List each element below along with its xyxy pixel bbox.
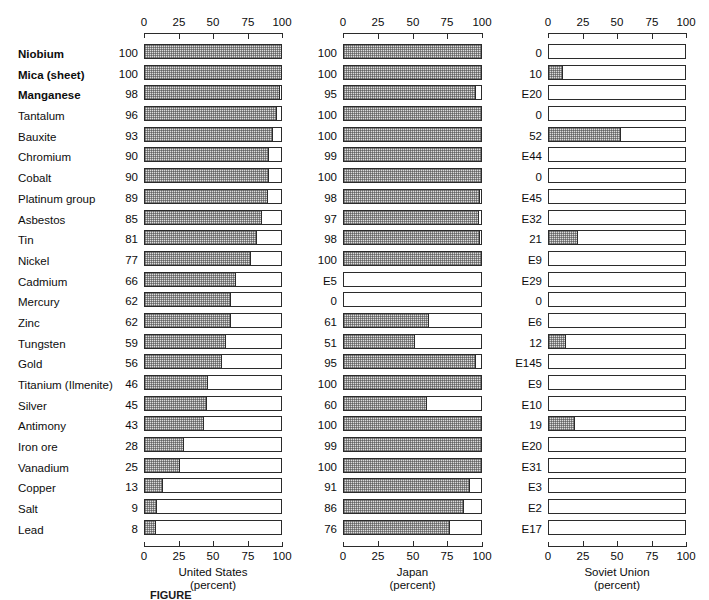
bar-fill [344,169,482,182]
bar-value-label: 52 [512,128,542,145]
bar-fill [344,66,482,79]
bar-row: 56 [130,354,288,375]
bar-fill [344,500,464,513]
bar-track [144,354,282,369]
bar-value-label: 95 [307,86,337,103]
bar-row: 28 [130,437,288,458]
top-axis-tick [248,33,249,39]
bar-track [343,458,482,473]
top-axis-tick-label: 100 [267,16,297,28]
panel-united-states: 00252550507575100100United States(percen… [130,0,288,600]
bar-value-label: 77 [108,252,138,269]
bar-fill [145,252,251,265]
bar-track [548,65,686,80]
bar-row: E2 [534,499,692,520]
bar-track [343,313,482,328]
bar-row: 90 [130,147,288,168]
bottom-axis-tick [548,542,549,547]
bottom-axis-tick-label: 0 [533,550,563,562]
bar-row: 61 [329,313,488,334]
bottom-axis-tick [617,541,618,547]
bar-track [548,189,686,204]
bottom-axis-tick-label: 50 [398,550,428,562]
bar-fill [145,438,184,451]
bar-track [548,210,686,225]
top-axis-tick-label: 0 [129,16,159,28]
bottom-axis-tick-label: 0 [328,550,358,562]
bar-row: 60 [329,396,488,417]
bar-value-label: 59 [108,335,138,352]
top-axis-tick [378,33,379,39]
bar-fill [145,479,163,492]
bar-value-label: E9 [512,376,542,393]
top-axis-tick-label: 75 [233,16,263,28]
bar-track [343,189,482,204]
bar-track [144,65,282,80]
bar-track [343,230,482,245]
bar-row: E5 [329,272,488,293]
bar-track [548,520,686,535]
bar-row: 13 [130,478,288,499]
top-axis-tick-label: 0 [328,16,358,28]
bar-value-label: 62 [108,293,138,310]
bar-row: E17 [534,520,692,541]
bottom-axis-tick [686,542,687,547]
bar-value-label: 100 [307,376,337,393]
bar-value-label: 99 [307,148,337,165]
bar-track [548,44,686,59]
bar-row: 98 [329,189,488,210]
bar-fill [549,335,566,348]
top-axis-tick [652,33,653,39]
top-axis-tick-label: 50 [198,16,228,28]
bar-value-label: 100 [307,169,337,186]
bar-row: 66 [130,272,288,293]
bar-row: 100 [329,127,488,148]
bar-value-label: 100 [307,252,337,269]
bar-track [144,189,282,204]
bar-track [144,272,282,287]
bar-track [144,375,282,390]
bar-value-label: E145 [512,355,542,372]
bar-track [343,437,482,452]
bar-value-label: E2 [512,500,542,517]
bar-fill [145,521,156,534]
bar-fill [145,148,269,161]
bar-fill [344,45,482,58]
bar-row: 96 [130,106,288,127]
bar-value-label: 10 [512,66,542,83]
bar-track [548,499,686,514]
bar-value-label: 28 [108,438,138,455]
top-axis-tick [583,33,584,39]
bottom-axis-tick-label: 50 [198,550,228,562]
top-axis-tick [413,33,414,39]
bottom-axis-tick [447,541,448,547]
panel-caption-name: Soviet Union [517,566,709,579]
bar-fill [549,128,621,141]
top-axis-tick-label: 25 [164,16,194,28]
bar-fill [344,376,482,389]
bar-fill [145,231,257,244]
bar-track [548,437,686,452]
bar-value-label: 66 [108,273,138,290]
bar-fill [145,397,207,410]
bar-value-label: 0 [512,293,542,310]
bar-track [548,313,686,328]
bar-track [144,168,282,183]
bar-track [343,44,482,59]
bar-track [548,106,686,121]
bottom-axis-tick [343,542,344,547]
bar-value-label: E31 [512,459,542,476]
bar-fill [145,211,262,224]
bar-row: 12 [534,334,692,355]
bar-value-label: E44 [512,148,542,165]
bar-row: 0 [329,292,488,313]
bar-row: 59 [130,334,288,355]
bar-fill [344,86,476,99]
bar-value-label: E45 [512,190,542,207]
bar-track [343,85,482,100]
bar-value-label: 46 [108,376,138,393]
top-axis-tick [686,33,687,38]
bar-value-label: E20 [512,438,542,455]
bar-value-label: 0 [512,107,542,124]
bar-value-label: E10 [512,397,542,414]
